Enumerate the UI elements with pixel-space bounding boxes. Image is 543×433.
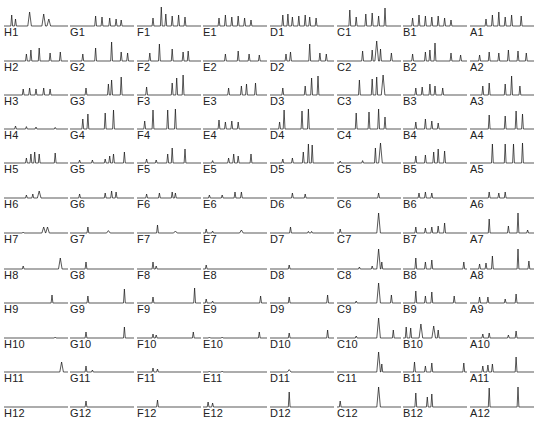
- spectrum-trace: [137, 211, 201, 235]
- well-A3: A3: [470, 73, 534, 107]
- well-D3: D3: [270, 73, 334, 107]
- well-label: E12: [203, 408, 223, 419]
- spectrum-trace: [137, 141, 201, 165]
- well-label: E4: [203, 130, 217, 141]
- spectrum-trace: [470, 176, 534, 200]
- well-label: A7: [470, 234, 484, 245]
- well-F2: F2: [137, 39, 201, 73]
- well-H12: H12: [4, 385, 68, 419]
- well-C4: C4: [337, 107, 401, 141]
- well-A6: A6: [470, 176, 534, 210]
- well-label: D12: [270, 408, 291, 419]
- spectrum-trace: [137, 350, 201, 374]
- spectrum-trace: [203, 350, 267, 374]
- well-label: B11: [403, 373, 422, 384]
- spectrum-trace: [203, 107, 267, 131]
- spectrum-trace: [203, 4, 267, 28]
- well-D10: D10: [270, 316, 334, 350]
- spectrum-trace: [70, 39, 134, 63]
- well-label: D11: [270, 373, 290, 384]
- well-label: D7: [270, 234, 284, 245]
- well-label: H9: [4, 304, 18, 315]
- spectrum-trace: [4, 350, 68, 374]
- well-label: G3: [70, 96, 85, 107]
- spectrum-trace: [4, 247, 68, 271]
- spectra-grid: H1G1F1E1D1C1B1A1H2G2F2E2D2C2B2A2H3G3F3E3…: [0, 0, 543, 433]
- well-label: A3: [470, 96, 484, 107]
- well-label: B8: [403, 270, 417, 281]
- spectrum-trace: [203, 281, 267, 305]
- spectrum-trace: [337, 176, 401, 200]
- well-B7: B7: [403, 211, 467, 245]
- well-label: D1: [270, 27, 284, 38]
- well-D4: D4: [270, 107, 334, 141]
- spectrum-trace: [70, 73, 134, 97]
- well-C3: C3: [337, 73, 401, 107]
- spectrum-trace: [203, 316, 267, 340]
- spectrum-trace: [137, 4, 201, 28]
- spectrum-trace: [337, 316, 401, 340]
- spectrum-trace: [470, 211, 534, 235]
- well-B6: B6: [403, 176, 467, 210]
- spectrum-trace: [470, 350, 534, 374]
- spectrum-trace: [203, 176, 267, 200]
- well-label: A4: [470, 130, 484, 141]
- spectrum-trace: [403, 385, 467, 409]
- spectrum-trace: [403, 281, 467, 305]
- well-B2: B2: [403, 39, 467, 73]
- well-label: F7: [137, 234, 150, 245]
- well-C7: C7: [337, 211, 401, 245]
- well-label: B10: [403, 339, 423, 350]
- well-G1: G1: [70, 4, 134, 38]
- well-G6: G6: [70, 176, 134, 210]
- spectrum-trace: [337, 73, 401, 97]
- well-G9: G9: [70, 281, 134, 315]
- well-E12: E12: [203, 385, 267, 419]
- spectrum-trace: [337, 211, 401, 235]
- well-E5: E5: [203, 141, 267, 175]
- well-F9: F9: [137, 281, 201, 315]
- well-label: A9: [470, 304, 484, 315]
- spectrum-trace: [4, 385, 68, 409]
- well-label: B1: [403, 27, 417, 38]
- spectrum-trace: [70, 141, 134, 165]
- well-label: H8: [4, 270, 18, 281]
- spectrum-trace: [470, 385, 534, 409]
- spectrum-trace: [270, 281, 334, 305]
- well-label: C8: [337, 270, 351, 281]
- well-B9: B9: [403, 281, 467, 315]
- spectrum-trace: [403, 247, 467, 271]
- well-E8: E8: [203, 247, 267, 281]
- spectrum-trace: [470, 4, 534, 28]
- well-A2: A2: [470, 39, 534, 73]
- well-label: F5: [137, 164, 150, 175]
- spectrum-trace: [270, 247, 334, 271]
- well-H9: H9: [4, 281, 68, 315]
- well-F5: F5: [137, 141, 201, 175]
- well-label: D3: [270, 96, 284, 107]
- well-label: D8: [270, 270, 284, 281]
- well-label: F9: [137, 304, 150, 315]
- well-E4: E4: [203, 107, 267, 141]
- well-label: H2: [4, 62, 18, 73]
- well-H3: H3: [4, 73, 68, 107]
- well-label: D10: [270, 339, 291, 350]
- well-A8: A8: [470, 247, 534, 281]
- well-label: G5: [70, 164, 85, 175]
- spectrum-trace: [270, 350, 334, 374]
- well-label: C7: [337, 234, 351, 245]
- spectrum-trace: [4, 176, 68, 200]
- spectrum-trace: [203, 247, 267, 271]
- well-G12: G12: [70, 385, 134, 419]
- well-D6: D6: [270, 176, 334, 210]
- well-label: F11: [137, 373, 156, 384]
- spectrum-trace: [337, 107, 401, 131]
- spectrum-trace: [70, 107, 134, 131]
- spectrum-trace: [403, 141, 467, 165]
- spectrum-trace: [70, 281, 134, 305]
- well-label: D2: [270, 62, 284, 73]
- well-G3: G3: [70, 73, 134, 107]
- well-E11: E11: [203, 350, 267, 384]
- spectrum-trace: [203, 39, 267, 63]
- well-label: B2: [403, 62, 417, 73]
